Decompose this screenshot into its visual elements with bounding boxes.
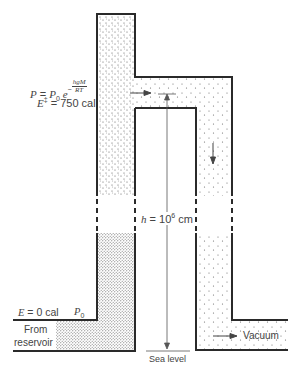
sea-level-label: Sea level bbox=[149, 355, 186, 364]
left-column-upper-gas bbox=[98, 15, 135, 196]
p0-subscript: 0 bbox=[80, 312, 84, 319]
energy-symbol: E bbox=[37, 97, 44, 109]
from-label: From bbox=[24, 325, 47, 335]
exponent-fraction: hgMRT bbox=[72, 79, 87, 94]
right-column-lower-gas bbox=[196, 233, 232, 351]
ground-energy-label: E = 0 cal bbox=[18, 307, 59, 319]
reservoir-inlet-gas bbox=[56, 321, 98, 351]
activation-energy-label: E‡ = 750 cal bbox=[37, 96, 96, 109]
left-column-lower-gas bbox=[98, 233, 135, 351]
energy-value: = 750 cal bbox=[48, 97, 96, 109]
reservoir-pressure-label: P0 bbox=[74, 307, 84, 319]
right-column-upper-gas bbox=[196, 108, 232, 196]
vacuum-label: Vacuum bbox=[243, 331, 279, 341]
exp-denominator: RT bbox=[72, 87, 87, 94]
pressure-symbol: P bbox=[30, 88, 37, 100]
energy-value: = 0 cal bbox=[24, 306, 58, 318]
height-value: = 10 bbox=[147, 213, 172, 225]
tube-walls bbox=[13, 14, 288, 351]
height-unit: cm bbox=[175, 213, 193, 225]
height-label: h = 106 cm bbox=[141, 212, 193, 225]
reservoir-label: reservoir bbox=[14, 338, 53, 348]
